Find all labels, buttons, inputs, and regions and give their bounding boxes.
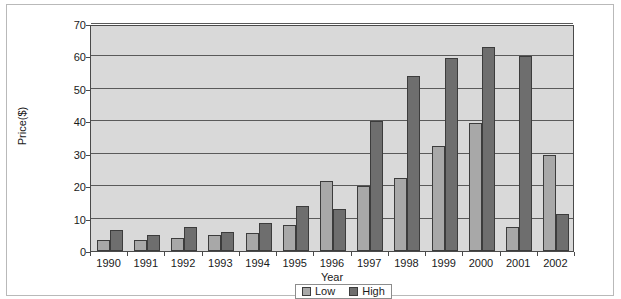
- x-tick-label-2002: 2002: [537, 257, 574, 269]
- bar-high-1994: [259, 223, 272, 251]
- x-tick-mark-1992: [164, 252, 165, 256]
- legend-label-low: Low: [315, 286, 335, 297]
- legend-swatch-low-icon: [302, 287, 311, 296]
- y-tick-label-20: 20: [52, 182, 86, 193]
- x-tick-mark-1997: [351, 252, 352, 256]
- bar-high-1995: [296, 206, 309, 251]
- x-tick-label-1994: 1994: [239, 257, 276, 269]
- x-tick-mark-1999: [425, 252, 426, 256]
- y-tick-mark-60: [86, 57, 90, 58]
- bar-group-1994: [240, 26, 277, 251]
- bar-group-2000: [463, 26, 500, 251]
- y-tick-mark-30: [86, 155, 90, 156]
- bar-group-1997: [352, 26, 389, 251]
- bar-group-1993: [203, 26, 240, 251]
- y-tick-mark-50: [86, 90, 90, 91]
- bar-high-1996: [333, 209, 346, 251]
- bar-low-2002: [543, 155, 556, 251]
- bar-high-2001: [519, 56, 532, 251]
- y-tick-label-30: 30: [52, 150, 86, 161]
- bar-low-1993: [208, 235, 221, 251]
- bar-low-1990: [97, 240, 110, 251]
- y-tick-mark-40: [86, 122, 90, 123]
- bar-group-1996: [314, 26, 351, 251]
- x-tick-label-1998: 1998: [388, 257, 425, 269]
- x-tick-mark-1995: [276, 252, 277, 256]
- y-tick-label-70: 70: [52, 20, 86, 31]
- x-tick-label-1995: 1995: [276, 257, 313, 269]
- bar-high-1997: [370, 121, 383, 251]
- bar-low-1991: [134, 240, 147, 251]
- x-tick-label-1993: 1993: [202, 257, 239, 269]
- bar-low-1998: [394, 178, 407, 251]
- x-tick-mark-1996: [313, 252, 314, 256]
- bar-group-1999: [426, 26, 463, 251]
- bar-low-1997: [357, 186, 370, 251]
- x-axis-title: Year: [90, 271, 574, 283]
- chart-legend: LowHigh: [295, 284, 392, 299]
- legend-swatch-high-icon: [349, 287, 358, 296]
- x-tick-mark-1991: [127, 252, 128, 256]
- bar-group-1990: [91, 26, 128, 251]
- legend-label-high: High: [362, 286, 385, 297]
- y-tick-label-40: 40: [52, 117, 86, 128]
- bar-low-1995: [283, 225, 296, 251]
- y-tick-label-10: 10: [52, 215, 86, 226]
- x-tick-mark-1994: [239, 252, 240, 256]
- gridline-70: [91, 23, 573, 24]
- y-axis-title: Price($): [16, 86, 28, 166]
- bar-high-2000: [482, 47, 495, 251]
- x-tick-mark-2001: [500, 252, 501, 256]
- bar-low-1999: [432, 146, 445, 251]
- x-tick-label-1991: 1991: [127, 257, 164, 269]
- bar-high-1990: [110, 230, 123, 251]
- x-tick-mark-2002: [537, 252, 538, 256]
- x-tick-label-1999: 1999: [425, 257, 462, 269]
- x-tick-label-2001: 2001: [500, 257, 537, 269]
- y-tick-label-50: 50: [52, 85, 86, 96]
- x-tick-mark-1993: [202, 252, 203, 256]
- bar-group-2001: [501, 26, 538, 251]
- bar-low-1996: [320, 181, 333, 251]
- y-tick-mark-20: [86, 187, 90, 188]
- x-tick-mark-1990: [90, 252, 91, 256]
- bar-group-1995: [277, 26, 314, 251]
- y-tick-mark-10: [86, 220, 90, 221]
- y-tick-label-60: 60: [52, 52, 86, 63]
- x-tick-label-1992: 1992: [164, 257, 201, 269]
- y-tick-mark-70: [86, 25, 90, 26]
- bar-low-2000: [469, 123, 482, 251]
- x-tick-label-1997: 1997: [351, 257, 388, 269]
- y-axis-tick-labels: 010203040506070: [48, 25, 86, 252]
- bar-group-1992: [165, 26, 202, 251]
- legend-item-high: High: [349, 286, 385, 297]
- bar-group-2002: [538, 26, 575, 251]
- bar-high-1999: [445, 58, 458, 251]
- legend-item-low: Low: [302, 286, 335, 297]
- x-tick-label-2000: 2000: [462, 257, 499, 269]
- bar-high-2002: [556, 214, 569, 251]
- x-tick-mark-1998: [388, 252, 389, 256]
- bar-chart: Price($) 010203040506070 199019911992199…: [0, 0, 621, 299]
- bar-low-1994: [246, 233, 259, 251]
- plot-area: [90, 25, 574, 252]
- bar-group-1998: [389, 26, 426, 251]
- y-tick-mark-0: [86, 252, 90, 253]
- x-tick-mark-end: [574, 252, 575, 256]
- bar-high-1993: [221, 232, 234, 251]
- x-tick-mark-2000: [462, 252, 463, 256]
- bar-high-1992: [184, 227, 197, 251]
- bar-high-1991: [147, 235, 160, 251]
- bar-low-2001: [506, 227, 519, 251]
- x-tick-label-1990: 1990: [90, 257, 127, 269]
- y-tick-label-0: 0: [52, 247, 86, 258]
- bar-low-1992: [171, 238, 184, 251]
- bar-group-1991: [128, 26, 165, 251]
- bar-high-1998: [407, 76, 420, 251]
- x-tick-label-1996: 1996: [313, 257, 350, 269]
